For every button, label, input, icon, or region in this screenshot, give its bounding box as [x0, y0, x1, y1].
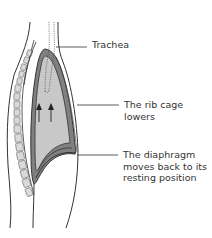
- rib-cage-label: The rib cage lowers: [124, 99, 183, 122]
- spine: [14, 49, 34, 196]
- diaphragm-label-line2: moves back to its: [123, 161, 207, 173]
- trachea-label-text: Trachea: [92, 39, 129, 50]
- inner-torso-line: [33, 183, 34, 228]
- trachea-label: Trachea: [92, 39, 129, 51]
- diaphragm-label: The diaphragm moves back to its resting …: [123, 149, 207, 184]
- rib-cage-label-line1: The rib cage: [124, 99, 183, 111]
- diaphragm-label-line1: The diaphragm: [123, 149, 207, 161]
- rib-cage-label-line2: lowers: [124, 111, 183, 123]
- diaphragm-label-line3: resting position: [123, 172, 207, 184]
